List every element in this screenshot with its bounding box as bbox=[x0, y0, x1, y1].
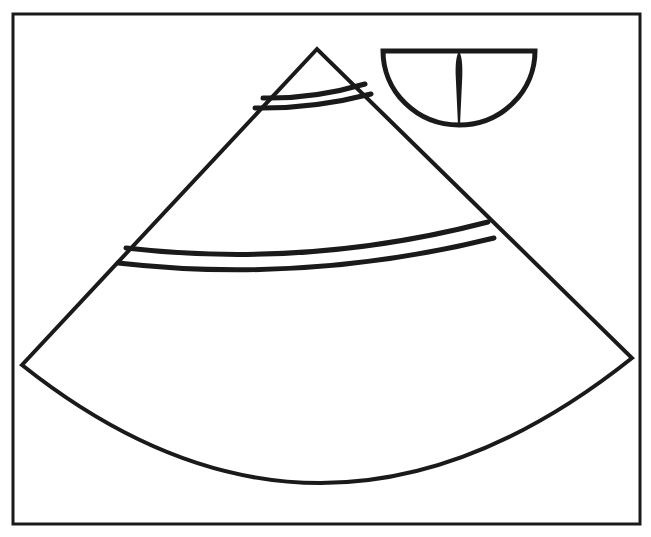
figure-canvas: Ultrasound sector scan schematic Line dr… bbox=[0, 0, 651, 537]
image-border-frame bbox=[13, 14, 640, 524]
line-art-drawing bbox=[0, 0, 651, 537]
tapered-spike-icon bbox=[456, 51, 463, 125]
